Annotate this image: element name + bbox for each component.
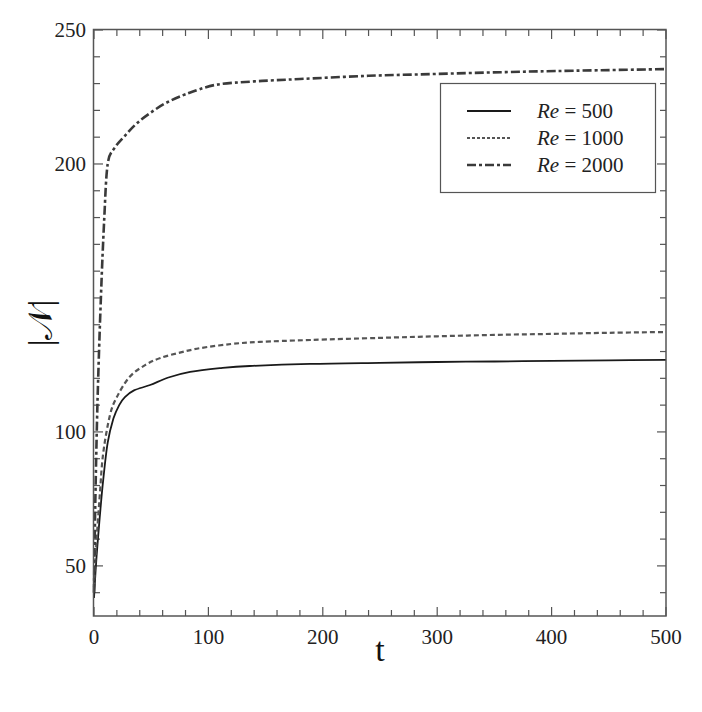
chart: 0100200300400500 50100200250 t |𝒩| Re = … xyxy=(0,0,702,712)
x-tick-label: 0 xyxy=(89,625,100,649)
x-tick-labels: 0100200300400500 xyxy=(89,625,682,649)
y-tick-label: 50 xyxy=(65,554,86,578)
y-tick-labels: 50100200250 xyxy=(55,18,87,578)
x-tick-label: 300 xyxy=(421,625,453,649)
legend-label: Re = 500 xyxy=(536,99,613,123)
x-axis-title: t xyxy=(375,631,385,668)
series-line-re-1000 xyxy=(94,332,666,587)
y-tick-label: 100 xyxy=(55,420,87,444)
y-tick-label: 250 xyxy=(55,18,87,42)
y-tick-label: 200 xyxy=(55,152,87,176)
x-tick-label: 200 xyxy=(307,625,339,649)
x-tick-label: 500 xyxy=(650,625,682,649)
legend: Re = 500Re = 1000Re = 2000 xyxy=(441,84,656,193)
series-line-re-500 xyxy=(94,360,666,598)
legend-label: Re = 1000 xyxy=(536,126,624,150)
x-tick-label: 400 xyxy=(536,625,568,649)
y-axis-title: |𝒩| xyxy=(22,300,59,347)
legend-label: Re = 2000 xyxy=(536,153,624,177)
x-tick-label: 100 xyxy=(193,625,225,649)
